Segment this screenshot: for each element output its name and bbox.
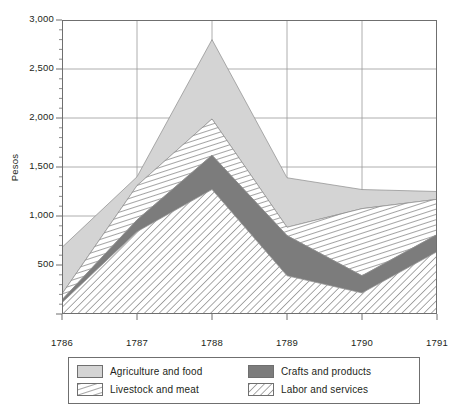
legend-swatch-labor-icon xyxy=(248,383,274,396)
y-axis-ticks xyxy=(0,0,62,340)
x-tick-label-1788: 1788 xyxy=(189,337,235,348)
chart-legend: Agriculture and food Crafts and products… xyxy=(68,357,420,404)
chart-figure: Pesos 5001,0001,5002,0002,5003,000 xyxy=(0,0,458,412)
legend-label-labor: Labor and services xyxy=(281,384,368,395)
legend-swatch-agriculture-icon xyxy=(77,365,103,378)
legend-label-crafts: Crafts and products xyxy=(281,366,371,377)
legend-label-agriculture: Agriculture and food xyxy=(110,366,203,377)
x-tick-label-1789: 1789 xyxy=(264,337,310,348)
legend-item-labor-and-services: Labor and services xyxy=(248,383,419,396)
legend-item-agriculture-and-food: Agriculture and food xyxy=(77,365,248,378)
stacked-area-svg xyxy=(62,20,437,314)
legend-item-crafts-and-products: Crafts and products xyxy=(248,365,419,378)
x-tick-label-1787: 1787 xyxy=(114,337,160,348)
legend-item-livestock-and-meat: Livestock and meat xyxy=(77,383,248,396)
area-bands xyxy=(62,40,437,314)
x-tick-label-1791: 1791 xyxy=(414,337,458,348)
plot-area xyxy=(62,20,437,314)
x-axis-tick-labels: 178617871788178917901791 xyxy=(0,330,458,350)
x-axis-ticks xyxy=(0,314,458,322)
legend-swatch-crafts-icon xyxy=(248,365,274,378)
x-tick-label-1790: 1790 xyxy=(339,337,385,348)
legend-label-livestock: Livestock and meat xyxy=(110,384,199,395)
legend-swatch-livestock-icon xyxy=(77,383,103,396)
